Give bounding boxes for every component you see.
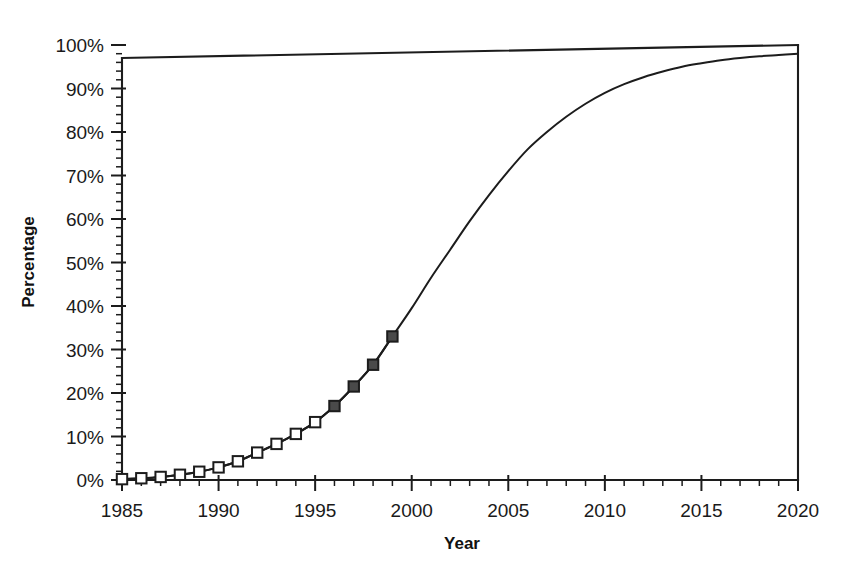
- data-point-marker-open: [175, 470, 185, 480]
- chart-container: 0%10%20%30%40%50%60%70%80%90%100% 198519…: [0, 0, 843, 577]
- y-axis-ticks: [111, 45, 126, 480]
- y-tick-label: 20%: [66, 383, 104, 404]
- y-tick-label: 80%: [66, 122, 104, 143]
- y-tick-label: 40%: [66, 296, 104, 317]
- y-tick-label: 60%: [66, 209, 104, 230]
- y-tick-label: 70%: [66, 166, 104, 187]
- x-tick-label: 2010: [584, 500, 626, 521]
- x-tick-label: 1995: [294, 500, 336, 521]
- y-tick-label: 50%: [66, 253, 104, 274]
- x-axis-ticks: [122, 475, 798, 491]
- data-point-marker-filled: [368, 360, 378, 370]
- y-tick-label: 10%: [66, 427, 104, 448]
- data-point-marker-open: [252, 447, 262, 457]
- x-axis-tick-labels: 19851990199520002005201020152020: [101, 500, 819, 521]
- y-tick-label: 30%: [66, 340, 104, 361]
- data-point-marker-open: [117, 474, 127, 484]
- y-tick-label: 90%: [66, 79, 104, 100]
- series-markers: [117, 331, 398, 484]
- data-point-marker-open: [194, 467, 204, 477]
- data-point-marker-open: [136, 473, 146, 483]
- x-tick-label: 2000: [391, 500, 433, 521]
- x-tick-label: 2015: [680, 500, 722, 521]
- x-tick-label: 2020: [777, 500, 819, 521]
- series-line: [122, 54, 798, 479]
- y-tick-label: 0%: [77, 470, 105, 491]
- data-point-marker-open: [271, 439, 281, 449]
- y-axis-title: Percentage: [19, 216, 38, 308]
- data-point-marker-open: [213, 462, 223, 472]
- plot-frame: [122, 45, 798, 480]
- x-tick-label: 1985: [101, 500, 143, 521]
- data-point-marker-filled: [349, 381, 359, 391]
- y-tick-label: 100%: [55, 35, 104, 56]
- x-tick-label: 2005: [487, 500, 529, 521]
- data-point-marker-filled: [329, 401, 339, 411]
- data-point-marker-open: [291, 429, 301, 439]
- x-tick-label: 1990: [197, 500, 239, 521]
- data-point-marker-filled: [387, 331, 397, 341]
- y-axis-tick-labels: 0%10%20%30%40%50%60%70%80%90%100%: [55, 35, 104, 491]
- x-axis-title: Year: [444, 534, 480, 553]
- data-point-marker-open: [155, 472, 165, 482]
- series-lines: [122, 54, 798, 479]
- line-chart: 0%10%20%30%40%50%60%70%80%90%100% 198519…: [0, 0, 843, 577]
- data-point-marker-open: [233, 456, 243, 466]
- top-border-line: [122, 45, 798, 58]
- data-point-marker-open: [310, 417, 320, 427]
